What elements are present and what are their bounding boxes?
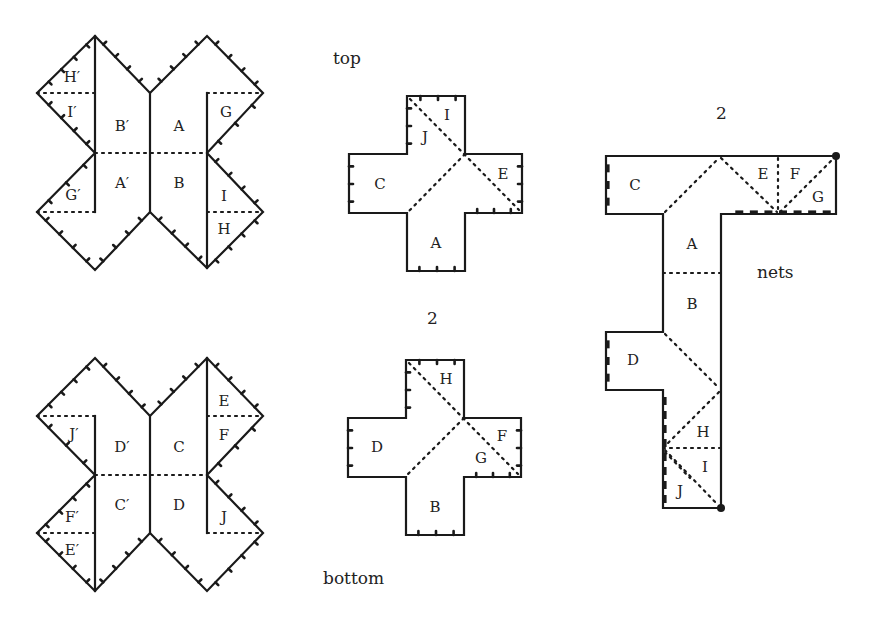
fold-a-e (721, 158, 777, 212)
face-label: H (217, 220, 230, 238)
face-labels-bottom-star: EJ′D′CFC′DF′E′J (65, 392, 230, 559)
glue-tick (198, 257, 201, 260)
glue-tick (49, 102, 52, 105)
glue-tick (218, 463, 221, 466)
glue-tick (61, 392, 64, 395)
glue-tick (242, 391, 245, 394)
glue-tick (103, 42, 106, 45)
glue-tick (73, 566, 76, 569)
face-label: C (374, 175, 385, 193)
glue-tick (159, 539, 162, 542)
glue-tick (228, 569, 231, 572)
glue-tick (242, 555, 245, 558)
glue-tick (252, 428, 255, 431)
face-label: G (220, 103, 232, 121)
face-label: G′ (65, 186, 81, 204)
face-label: G (812, 188, 824, 206)
glue-tick (86, 484, 89, 487)
t-net: CEFGABDHIJ (606, 152, 840, 512)
star-net-top: H′I′B′AGG′A′BIH (37, 36, 263, 270)
diagonal-fold-2 (408, 418, 464, 474)
face-label: H (439, 370, 452, 388)
face-label: B (173, 174, 184, 192)
glue-tick (49, 200, 52, 203)
glue-tick (235, 123, 238, 126)
glue-tick (172, 231, 175, 234)
diagonal-fold-2 (409, 154, 465, 211)
caption-top: top (333, 48, 361, 68)
glue-tick (113, 566, 116, 569)
face-label: D (371, 438, 383, 456)
glue-tick (235, 446, 238, 449)
face-label: B (686, 295, 697, 313)
glue-dashes-t-net (608, 164, 831, 503)
glue-tick (185, 244, 188, 247)
face-label: F (497, 427, 507, 445)
face-label: J (420, 128, 428, 146)
face-label: D (627, 351, 639, 369)
glue-tick (215, 159, 218, 162)
glue-tick (215, 260, 218, 263)
glue-tick (116, 377, 119, 380)
face-label: E′ (65, 541, 80, 559)
face-label: A (430, 234, 442, 252)
glue-tick (242, 233, 245, 236)
corner-dot-top-right (832, 152, 840, 160)
glue-tick (215, 481, 218, 484)
caption-count-t-net: 2 (716, 103, 727, 123)
face-label: E (219, 392, 230, 410)
glue-tick (255, 200, 258, 203)
glue-tick (126, 231, 129, 234)
glue-tick (159, 79, 162, 82)
face-label: J (675, 482, 683, 500)
glue-tick (74, 57, 77, 60)
glue-tick (66, 443, 69, 446)
face-label: A (686, 235, 698, 253)
glue-tick (215, 364, 218, 367)
glue-tick (129, 391, 132, 394)
face-label: E (758, 165, 769, 183)
fold-c-a (665, 158, 719, 212)
fold-i-j (665, 450, 718, 505)
glue-tick (59, 552, 62, 555)
glue-tick (115, 54, 118, 57)
fold-b-d (665, 334, 719, 388)
glue-tick (127, 66, 130, 69)
glue-tick (100, 259, 103, 262)
face-label: B′ (115, 117, 130, 135)
glue-tick (49, 82, 52, 85)
face-label: D′ (114, 438, 130, 456)
face-label: G (475, 449, 487, 467)
glue-tick (215, 582, 218, 585)
glue-tick (255, 405, 258, 408)
caption-count-cross: 2 (427, 308, 438, 328)
glue-tick (242, 508, 245, 511)
caption-bottom: bottom (323, 568, 384, 588)
glue-tick (49, 404, 52, 407)
glue-tick (139, 218, 142, 221)
t-net-outline (606, 156, 836, 508)
glue-tick (159, 218, 162, 221)
glue-tick (255, 542, 258, 545)
face-label: C (173, 438, 184, 456)
face-label: J′ (67, 425, 79, 443)
face-label: H (696, 423, 709, 441)
star-net-bottom: EJ′D′CFC′DF′E′J (37, 358, 263, 591)
glue-tick (86, 579, 89, 582)
glue-tick (183, 376, 186, 379)
fold-j-inner (665, 452, 690, 478)
glue-tick (242, 68, 245, 71)
glue-tick (228, 247, 231, 250)
face-label: C′ (115, 496, 130, 514)
glue-tick (73, 245, 76, 248)
glue-tick (73, 497, 76, 500)
face-label: A′ (114, 174, 130, 192)
glue-tick (83, 165, 86, 168)
glue-tick (139, 539, 142, 542)
face-label: C (629, 176, 640, 194)
glue-tick (218, 141, 221, 144)
glue-tick (142, 405, 145, 408)
glue-tick (215, 42, 218, 45)
glue-tick (103, 364, 106, 367)
corner-dot-bottom (717, 504, 725, 512)
